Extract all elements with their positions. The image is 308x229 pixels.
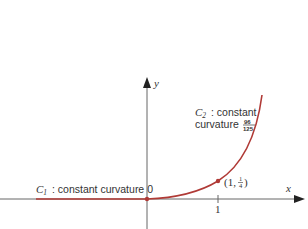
origin-point xyxy=(145,197,149,201)
c1-label: C1 : constant curvature 0 xyxy=(36,183,153,197)
x-axis-label: x xyxy=(285,182,291,194)
y-axis-arrow-icon xyxy=(143,77,151,88)
c1-subscript: 1 xyxy=(43,188,47,197)
point-label-close: ) xyxy=(244,176,248,189)
c2-description-line2: curvature xyxy=(195,118,239,130)
c2-curvature-numerator: 96 xyxy=(244,119,251,125)
x-tick-label: 1 xyxy=(215,203,221,215)
curvature-diagram: y x 1 C1 : constant curvature 0 C2 : con… xyxy=(0,0,308,229)
y-axis-label: y xyxy=(153,77,159,89)
x-axis-arrow-icon xyxy=(294,195,305,203)
point-label-denominator: 4 xyxy=(239,182,243,189)
c2-description-line1: : constant xyxy=(211,106,257,118)
c1-description: : constant curvature 0 xyxy=(52,183,153,195)
svg-text:C1: C1 xyxy=(36,183,47,197)
c2-curvature-denominator: 125 xyxy=(243,126,254,132)
c2-label: C2 : constant curvature 96 125 xyxy=(195,106,257,132)
point-label-numerator: 1 xyxy=(239,175,242,182)
point-label: (1, 1 4 ) xyxy=(224,175,248,189)
point-label-open: (1, xyxy=(224,176,236,189)
point-1-quarter xyxy=(216,179,220,183)
